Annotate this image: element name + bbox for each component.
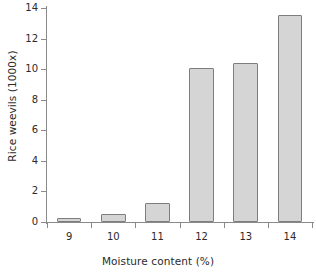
bar [233,63,258,222]
y-axis-tick-label: 2 [2,186,38,196]
x-axis-tick [135,223,136,228]
x-axis-title: Moisture content (%) [0,255,316,267]
x-axis-tick [180,223,181,228]
x-axis-tick-label: 11 [135,232,179,242]
x-axis-tick-label: 10 [91,232,135,242]
y-axis-tick [41,130,47,131]
bar [278,15,303,222]
x-axis-tick-label: 12 [180,232,224,242]
bar [189,68,214,222]
x-axis-tick-label: 13 [224,232,268,242]
x-axis-tick [268,223,269,228]
bar [145,203,170,222]
y-axis-tick-label: 12 [2,34,38,44]
y-axis-tick-label: 10 [2,64,38,74]
x-axis-tick-label: 9 [47,232,91,242]
x-axis-tick [91,223,92,228]
bar [57,218,82,222]
y-axis-tick [41,8,47,9]
x-axis-tick [312,223,313,228]
y-axis-tick [41,100,47,101]
y-axis-tick [41,69,47,70]
y-axis-tick-label: 4 [2,156,38,166]
y-axis-tick [41,191,47,192]
x-axis-tick [47,223,48,228]
x-axis-tick-label: 14 [268,232,312,242]
y-axis-tick [41,161,47,162]
y-axis-tick [41,39,47,40]
y-axis-tick-label: 0 [2,217,38,227]
bar [101,214,126,222]
bar-chart: Rice weevils (1000x) 02468101214 9101112… [0,0,316,276]
y-axis-tick-label: 8 [2,95,38,105]
y-axis-tick-label: 6 [2,125,38,135]
x-axis-tick [224,223,225,228]
y-axis-tick-label: 14 [2,3,38,13]
